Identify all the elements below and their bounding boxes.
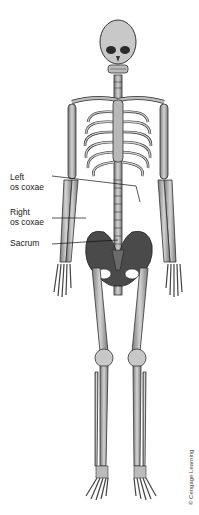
legs: [92, 268, 148, 466]
label-line: Sacrum: [10, 238, 39, 248]
skeleton-illustration: [0, 0, 199, 515]
label-line: Right: [10, 207, 44, 217]
label-left-os-coxae: Left os coxae: [10, 172, 44, 192]
feet: [86, 466, 156, 500]
copyright-credit: © Cengage Learning: [188, 450, 194, 505]
label-line: os coxae: [10, 217, 44, 227]
label-sacrum: Sacrum: [10, 238, 39, 248]
label-right-os-coxae: Right os coxae: [10, 207, 44, 227]
label-line: Left: [10, 172, 44, 182]
skull: [100, 20, 136, 73]
sternum: [113, 100, 123, 162]
label-line: os coxae: [10, 182, 44, 192]
